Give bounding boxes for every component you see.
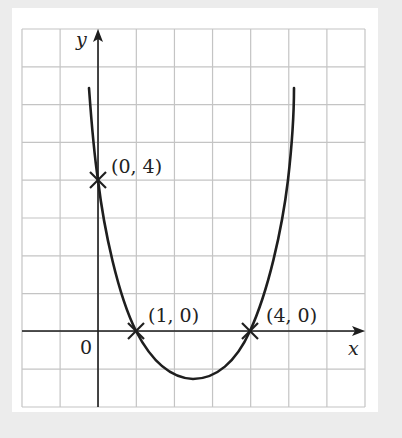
graph: (0, 4) (1, 0) (4, 0) 0 x y [0, 0, 402, 438]
x-axis-label: x [348, 337, 359, 359]
origin-label: 0 [80, 336, 92, 358]
grid [22, 29, 365, 407]
axes [22, 34, 360, 407]
point-label: (1, 0) [148, 304, 199, 326]
curve [89, 88, 294, 379]
point-label: (4, 0) [266, 304, 317, 326]
point-label: (0, 4) [111, 155, 162, 177]
y-axis-label: y [75, 28, 87, 50]
